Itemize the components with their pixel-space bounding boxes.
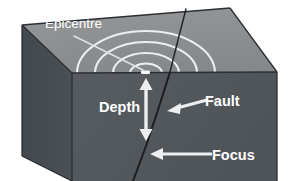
- epicentre-label: Epicentre: [45, 17, 102, 31]
- front-cross-section-face: [72, 72, 277, 181]
- depth-label: Depth: [99, 100, 140, 115]
- focus-label: Focus: [212, 148, 255, 163]
- epicentre-marker: [141, 71, 150, 75]
- fault-label: Fault: [205, 94, 240, 109]
- earthquake-diagram: Epicentre Depth Fault Focus: [0, 0, 292, 181]
